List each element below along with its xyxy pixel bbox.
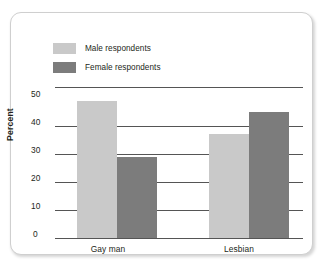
y-tick-40: 40 xyxy=(31,117,53,127)
x-axis-baseline xyxy=(55,238,303,239)
bar-lesbian-male xyxy=(209,134,249,238)
y-tick-20: 20 xyxy=(31,173,53,183)
plot-area xyxy=(55,98,303,238)
y-tick-0: 0 xyxy=(33,229,55,239)
y-tick-10: 10 xyxy=(31,201,53,211)
y-tick-30: 30 xyxy=(31,145,53,155)
bar-group-container xyxy=(55,98,303,238)
bar-lesbian-female xyxy=(249,112,289,238)
x-tick-gay-man: Gay man xyxy=(53,244,163,254)
chart-figure: Male respondents Female respondents Perc… xyxy=(0,0,324,269)
y-tick-50: 50 xyxy=(31,89,53,99)
chart-frame: Male respondents Female respondents Perc… xyxy=(10,12,313,255)
bar-gay-man-female xyxy=(117,157,157,238)
gridline-top xyxy=(55,87,303,88)
bar-gay-man-male xyxy=(77,101,117,238)
x-tick-lesbian: Lesbian xyxy=(184,244,294,254)
